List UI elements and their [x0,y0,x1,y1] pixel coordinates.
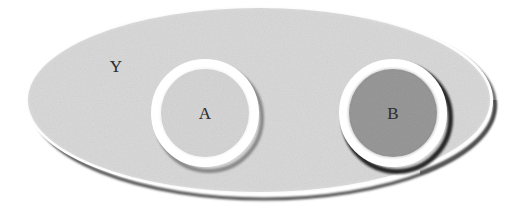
set-diagram-figure: Y A B [0,0,528,222]
set-diagram-canvas [0,0,528,222]
set-b-group[interactable] [340,60,451,172]
